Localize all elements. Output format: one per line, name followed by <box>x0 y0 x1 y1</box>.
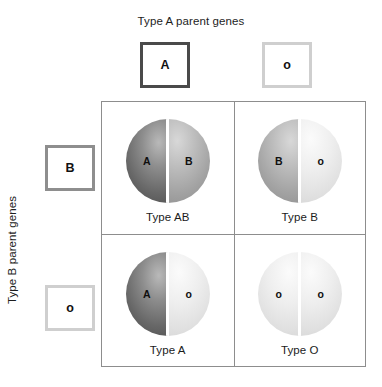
sphere-half-left: o <box>258 252 300 336</box>
sphere-half-left: B <box>258 119 300 203</box>
punnett-cell-ab: A B Type AB <box>102 102 234 234</box>
parent-allele-box-left-o: o <box>45 285 95 331</box>
allele-glyph: o <box>318 156 324 167</box>
allele-glyph: B <box>185 156 193 167</box>
allele-glyph: o <box>318 289 324 300</box>
sphere-seam <box>298 119 301 203</box>
sphere-half-right: B <box>168 119 210 203</box>
sphere-seam <box>298 252 301 336</box>
sphere-half-right: o <box>300 252 342 336</box>
blood-cell-sphere: A B <box>126 119 210 203</box>
parent-allele-box-top-a: A <box>140 42 190 88</box>
sphere-seam <box>166 252 169 336</box>
punnett-cell-b: B o Type B <box>234 102 366 234</box>
allele-glyph: A <box>143 289 151 300</box>
left-axis-label: Type B parent genes <box>6 165 18 335</box>
sphere-seam <box>166 119 169 203</box>
allele-glyph: B <box>65 162 74 175</box>
parent-allele-box-top-o: o <box>262 42 312 88</box>
punnett-cell-o: o o Type O <box>234 234 366 366</box>
sphere-half-right: o <box>168 252 210 336</box>
allele-glyph: A <box>143 156 151 167</box>
sphere-half-right: o <box>300 119 342 203</box>
cell-caption: Type O <box>281 344 319 356</box>
allele-glyph: o <box>276 289 282 300</box>
cell-caption: Type A <box>150 344 186 356</box>
punnett-cell-a: A o Type A <box>102 234 234 366</box>
blood-cell-sphere: B o <box>258 119 342 203</box>
allele-glyph: o <box>283 59 291 72</box>
punnett-grid: A B Type AB B o Type B <box>101 101 366 367</box>
allele-glyph: B <box>275 156 283 167</box>
sphere-half-left: A <box>126 252 168 336</box>
sphere-half-left: A <box>126 119 168 203</box>
blood-cell-sphere: o o <box>258 252 342 336</box>
punnett-square-figure: Type A parent genes Type B parent genes … <box>0 0 382 387</box>
allele-glyph: o <box>186 289 192 300</box>
allele-glyph: o <box>66 302 74 315</box>
parent-allele-box-left-b: B <box>45 145 95 191</box>
cell-caption: Type AB <box>146 211 190 223</box>
cell-caption: Type B <box>282 211 318 223</box>
blood-cell-sphere: A o <box>126 252 210 336</box>
top-axis-label: Type A parent genes <box>0 15 382 27</box>
allele-glyph: A <box>160 59 169 72</box>
